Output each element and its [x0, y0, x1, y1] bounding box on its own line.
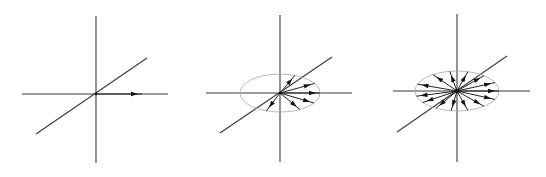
arrowhead-icon [484, 83, 491, 87]
vector-arrow [96, 92, 142, 96]
origin-point [95, 93, 97, 95]
arrowhead-icon [436, 77, 443, 83]
arrowhead-icon [303, 84, 310, 88]
arrowhead-icon [303, 98, 310, 102]
depth-axis [36, 58, 147, 134]
diagram-canvas [0, 0, 546, 177]
arrowhead-icon [484, 95, 491, 99]
vector-shaft [266, 93, 280, 111]
rotating-vector-diagram [0, 0, 546, 177]
vector-arrow [280, 93, 314, 103]
origin-point [455, 89, 459, 93]
depth-axis [397, 56, 507, 132]
panel-few-vectors [206, 15, 352, 162]
origin-point [279, 92, 281, 94]
arrowhead-icon [473, 99, 480, 104]
arrowhead-icon [488, 89, 495, 93]
arrowhead-icon [309, 91, 316, 95]
arrowhead-icon [461, 100, 466, 107]
arrowhead-icon [420, 93, 427, 97]
vector-arrow [266, 93, 280, 111]
depth-axis [220, 57, 332, 133]
arrowhead-icon [421, 84, 428, 88]
arrowhead-icon [131, 92, 138, 96]
arrowhead-icon [461, 75, 466, 82]
arrowhead-icon [452, 100, 456, 107]
panel-single-vector [22, 16, 168, 163]
arrowhead-icon [451, 75, 455, 82]
panel-many-vectors [393, 14, 530, 162]
arrowhead-icon [426, 97, 433, 101]
